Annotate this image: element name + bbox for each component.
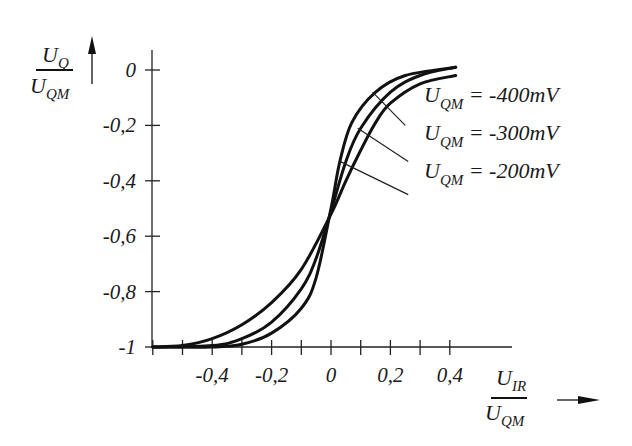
svg-text:UQM: UQM	[30, 73, 71, 102]
leader-line	[340, 161, 408, 194]
x-tick-label: 0,4	[437, 363, 464, 387]
svg-text:UQ: UQ	[42, 42, 69, 71]
y-tick-label: 0	[126, 58, 137, 82]
x-axis-title: UIR UQM	[485, 365, 600, 429]
y-tick-label: -1	[119, 335, 137, 359]
up-arrow-icon	[88, 36, 96, 84]
x-tick-label: -0,2	[255, 363, 289, 387]
x-tick-label: 0,2	[377, 363, 404, 387]
right-arrow-icon	[557, 396, 600, 404]
y-tick-label: -0,2	[103, 113, 137, 137]
y-tick-label: -0,8	[103, 280, 137, 304]
leader-line	[358, 128, 408, 161]
series-label: UQM = -200mV	[424, 158, 561, 188]
x-tick-label: -0,4	[196, 363, 230, 387]
chart-canvas: 0-0,2-0,4-0,6-0,8-1 -0,4-0,200,20,4 UQ U…	[0, 0, 632, 446]
svg-text:UQM: UQM	[485, 400, 526, 429]
y-tick-label: -0,4	[103, 169, 137, 193]
svg-text:UIR: UIR	[496, 365, 526, 394]
series-label: UQM = -300mV	[424, 120, 561, 150]
series-label: UQM = -400mV	[424, 82, 561, 112]
curves	[153, 67, 456, 347]
y-axis-title: UQ UQM	[30, 36, 96, 102]
y-tick-label: -0,6	[103, 224, 137, 248]
curve-series-1	[153, 67, 456, 347]
legend: UQM = -400mVUQM = -300mVUQM = -200mV	[424, 82, 561, 188]
x-tick-label: 0	[326, 363, 337, 387]
